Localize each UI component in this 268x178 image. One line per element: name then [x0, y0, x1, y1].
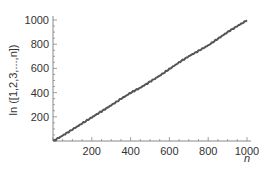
y-axis-title: ln ([1,2,3,...,n]) [7, 45, 19, 116]
y-tick-label: 400 [31, 87, 49, 99]
x-tick-label: 800 [199, 145, 217, 157]
y-tick-label: 1000 [25, 14, 49, 26]
x-axis: 2004006008001000 [53, 137, 259, 157]
y-tick-label: 800 [31, 38, 49, 50]
x-tick-label: 400 [121, 145, 139, 157]
data-series [53, 20, 247, 140]
line-chart: 2004006008001000 2004006008001000 n ln (… [0, 0, 268, 178]
series-line [53, 20, 247, 140]
x-tick-label: 200 [83, 145, 101, 157]
y-tick-label: 200 [31, 111, 49, 123]
y-axis: 2004006008001000 [25, 14, 57, 141]
x-axis-title: n [244, 152, 250, 164]
x-tick-label: 600 [160, 145, 178, 157]
y-tick-label: 600 [31, 62, 49, 74]
